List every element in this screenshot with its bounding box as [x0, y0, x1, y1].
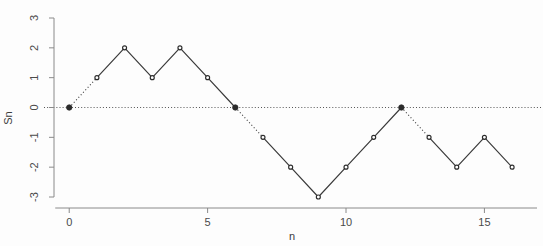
x-tick-label: 15	[478, 216, 490, 228]
y-axis-title: Sn	[2, 111, 14, 124]
x-tick-label: 5	[205, 216, 211, 228]
y-tick-label: -3	[28, 192, 40, 202]
data-point	[455, 165, 459, 169]
random-walk-line-chart: 3210-1-2-3 051015 Sn n	[0, 0, 543, 246]
data-point	[95, 76, 99, 80]
data-point	[150, 76, 154, 80]
data-point	[289, 165, 293, 169]
zero-crossing-point	[233, 105, 238, 110]
y-tick-label: 1	[28, 75, 40, 81]
data-point	[427, 135, 431, 139]
x-tick-label: 0	[66, 216, 72, 228]
data-point	[261, 135, 265, 139]
y-tick-label: 0	[28, 104, 40, 110]
data-point	[482, 135, 486, 139]
data-point	[372, 135, 376, 139]
y-tick-label: -2	[28, 162, 40, 172]
data-point	[178, 46, 182, 50]
data-point	[510, 165, 514, 169]
x-tick-label: 10	[340, 216, 352, 228]
x-axis-title: n	[289, 230, 295, 242]
data-point	[316, 195, 320, 199]
data-point	[344, 165, 348, 169]
y-tick-label: 2	[28, 45, 40, 51]
zero-crossing-point	[67, 105, 72, 110]
zero-crossing-point	[399, 105, 404, 110]
y-tick-label: 3	[28, 15, 40, 21]
y-tick-label: -1	[28, 132, 40, 142]
data-point	[206, 76, 210, 80]
chart-background	[0, 0, 543, 246]
data-point	[123, 46, 127, 50]
chart-container: 3210-1-2-3 051015 Sn n	[0, 0, 543, 246]
